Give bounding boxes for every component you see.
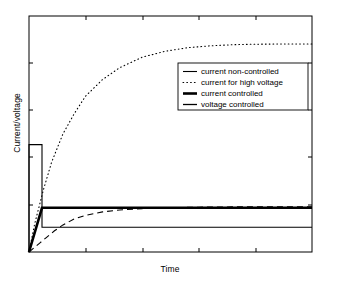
chart-figure: current non-controlled current for high … (0, 0, 340, 288)
plot-frame (29, 16, 312, 252)
chart-legend: current non-controlled current for high … (178, 63, 308, 110)
legend-label-0: current non-controlled (201, 67, 279, 76)
legend-label-1: current for high voltage (201, 78, 283, 87)
plot-canvas: current non-controlled current for high … (0, 0, 340, 288)
x-axis-label: Time (120, 264, 220, 274)
y-axis-label: Current/voltage (12, 78, 22, 168)
legend-label-3: voltage controlled (201, 100, 264, 109)
legend-label-2: current controlled (201, 89, 263, 98)
